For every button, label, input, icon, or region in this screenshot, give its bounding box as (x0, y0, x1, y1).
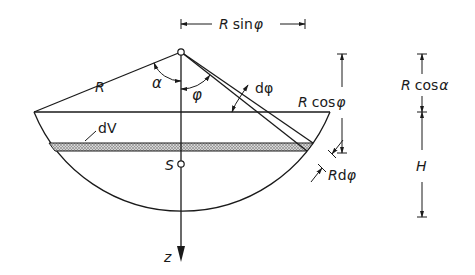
label-alpha: α (152, 74, 162, 92)
spherical-segment-diagram: R α φ dφ dV S z Rsinφ Rcosφ Rcosα Rdφ H (0, 0, 475, 275)
label-R: R (95, 79, 105, 95)
label-R-sin-phi: Rsinφ (219, 16, 264, 32)
centroid-point (178, 161, 184, 167)
label-phi: φ (192, 86, 202, 104)
center-point (178, 49, 184, 55)
label-z: z (163, 249, 172, 265)
label-dphi: dφ (255, 80, 273, 96)
dV-leader (85, 131, 96, 141)
label-R-dphi: Rdφ (328, 167, 357, 183)
label-R-cos-alpha: Rcosα (401, 77, 449, 93)
label-S: S (165, 157, 174, 173)
label-H: H (416, 158, 427, 174)
z-axis-arrow-icon (177, 246, 185, 262)
label-dV: dV (98, 120, 117, 136)
phi-at-surface-arc (232, 97, 240, 112)
label-R-cos-phi: Rcosφ (298, 94, 346, 110)
